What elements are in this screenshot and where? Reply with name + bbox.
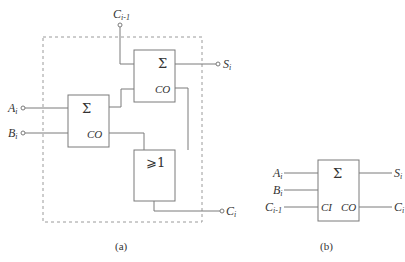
carry-in-label: CI: [321, 201, 333, 213]
terminal-cout: [220, 209, 224, 213]
diagram-a: Σ CO Σ CO ⩾1 Ai Bi Ci-1 Si Ci (a): [7, 7, 236, 253]
dashed-boundary: [43, 37, 202, 222]
label-s: Si: [394, 166, 402, 181]
label-a: Ai: [272, 166, 283, 181]
terminal-a: [21, 106, 25, 110]
wire-ha2-sum: [109, 89, 134, 107]
wire-cin-input: [120, 27, 134, 64]
sum-symbol: Σ: [82, 101, 91, 116]
caption-a: (a): [115, 240, 128, 253]
label-cin: Ci-1: [265, 200, 282, 215]
carry-out-label: CO: [341, 201, 356, 213]
caption-b: (b): [320, 240, 333, 253]
label-b: Bi: [273, 183, 283, 198]
carry-out-label: CO: [155, 83, 170, 95]
carry-out-label: CO: [87, 128, 102, 140]
label-s: Si: [223, 57, 231, 72]
sum-symbol: Σ: [333, 166, 342, 181]
label-cin: Ci-1: [113, 7, 130, 22]
diagram-b: Σ CI CO Ai Bi Ci-1 Si Ci (b): [265, 160, 404, 253]
label-b: Bi: [8, 126, 18, 141]
label-cout: Ci: [226, 204, 236, 219]
full-adder-diagram: Σ CO Σ CO ⩾1 Ai Bi Ci-1 Si Ci (a) Σ: [0, 0, 405, 262]
terminal-cin: [118, 23, 122, 27]
terminal-s: [216, 62, 220, 66]
wire-ha2-carry: [109, 133, 144, 150]
label-cout: Ci: [394, 200, 404, 215]
wire-ha1-carry: [175, 88, 188, 150]
sum-symbol: Σ: [158, 56, 167, 71]
wire-cout-output: [154, 201, 220, 211]
terminal-b: [21, 131, 25, 135]
or-symbol: ⩾1: [146, 155, 165, 170]
label-a: Ai: [7, 101, 18, 116]
